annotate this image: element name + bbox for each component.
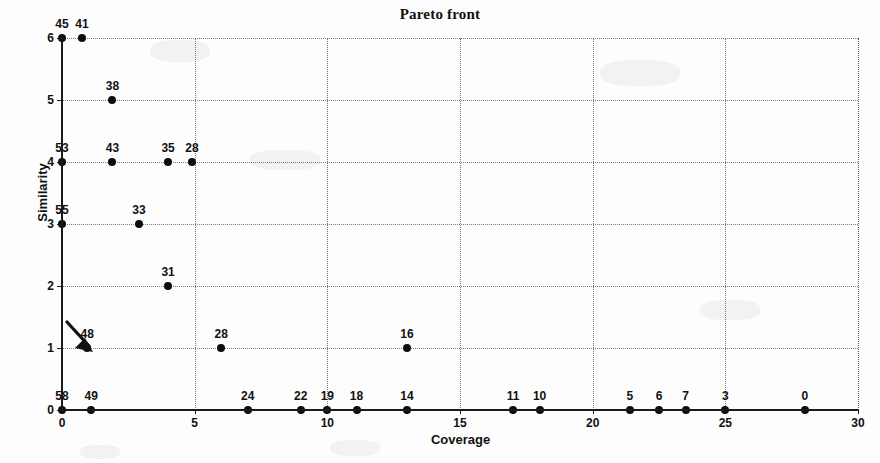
y-tick-5 — [57, 100, 63, 101]
data-point-label: 49 — [84, 389, 97, 403]
x-tick-label-10: 10 — [321, 416, 334, 430]
data-point — [164, 282, 172, 290]
y-tick-label-0: 0 — [36, 403, 54, 417]
data-point-label: 45 — [55, 17, 68, 31]
data-point-label: 10 — [533, 389, 546, 403]
pointer-arrow-icon — [63, 320, 103, 356]
y-axis-label: Similarity — [35, 133, 50, 253]
x-tick-label-0: 0 — [59, 416, 66, 430]
y-tick-label-6: 6 — [36, 31, 54, 45]
data-point-label: 38 — [106, 79, 119, 93]
x-tick-5 — [195, 409, 196, 414]
x-tick-label-15: 15 — [453, 416, 466, 430]
chart-page: Pareto front 454138534335285533314828165… — [0, 0, 880, 463]
data-point-label: 0 — [802, 389, 809, 403]
scan-artifact — [80, 445, 120, 459]
data-point — [78, 34, 86, 42]
data-point-label: 14 — [400, 389, 413, 403]
data-point — [188, 158, 196, 166]
data-point-label: 18 — [350, 389, 363, 403]
y-tick-label-5: 5 — [36, 93, 54, 107]
data-point-label: 35 — [161, 141, 174, 155]
data-point-label: 33 — [132, 203, 145, 217]
data-point-label: 24 — [241, 389, 254, 403]
data-point-label: 6 — [656, 389, 663, 403]
plot-right-frame — [858, 38, 859, 410]
x-tick-30 — [858, 409, 859, 414]
x-axis-label: Coverage — [62, 432, 859, 447]
data-point — [108, 158, 116, 166]
gridline-x-5 — [195, 38, 196, 410]
data-point-label: 7 — [682, 389, 689, 403]
y-tick-label-2: 2 — [36, 279, 54, 293]
data-point-label: 28 — [215, 327, 228, 341]
data-point-label: 3 — [722, 389, 729, 403]
data-point — [164, 158, 172, 166]
data-point-label: 31 — [161, 265, 174, 279]
data-point-label: 41 — [75, 17, 88, 31]
y-tick-4 — [57, 162, 63, 163]
x-tick-10 — [327, 409, 328, 414]
x-tick-label-30: 30 — [851, 416, 864, 430]
x-tick-25 — [725, 409, 726, 414]
data-point-label: 19 — [321, 389, 334, 403]
data-point-label: 5 — [626, 389, 633, 403]
y-tick-3 — [57, 224, 63, 225]
x-tick-label-5: 5 — [191, 416, 198, 430]
x-tick-15 — [460, 409, 461, 414]
x-tick-label-25: 25 — [719, 416, 732, 430]
data-point-label: 43 — [106, 141, 119, 155]
data-point — [403, 344, 411, 352]
data-point — [217, 344, 225, 352]
data-point-label: 22 — [294, 389, 307, 403]
x-tick-20 — [593, 409, 594, 414]
gridline-x-25 — [725, 38, 726, 410]
y-tick-label-1: 1 — [36, 341, 54, 355]
y-tick-0 — [57, 410, 63, 411]
chart-title: Pareto front — [0, 6, 880, 23]
data-point-label: 28 — [185, 141, 198, 155]
x-tick-label-20: 20 — [586, 416, 599, 430]
data-point — [135, 220, 143, 228]
data-point-label: 16 — [400, 327, 413, 341]
y-tick-2 — [57, 286, 63, 287]
y-tick-6 — [57, 38, 63, 39]
data-point-label: 11 — [507, 389, 520, 403]
plot-area: 4541385343352855333148281658492422191814… — [62, 38, 858, 410]
gridline-x-15 — [460, 38, 461, 410]
data-point — [108, 96, 116, 104]
gridline-x-20 — [593, 38, 594, 410]
gridline-x-10 — [327, 38, 328, 410]
